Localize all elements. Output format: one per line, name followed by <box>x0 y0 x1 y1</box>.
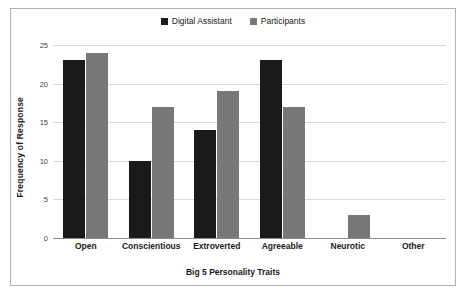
bar <box>348 215 370 238</box>
x-axis-tick-labels: OpenConscientiousExtrovertedAgreeableNeu… <box>53 241 446 251</box>
x-axis-tick-label: Agreeable <box>250 241 316 251</box>
chart-figure: Digital Assistant Participants Frequency… <box>10 8 456 286</box>
bar <box>86 53 108 238</box>
x-axis-tick-label: Open <box>53 241 119 251</box>
x-axis-tick-label: Other <box>381 241 447 251</box>
y-axis-tick-label: 10 <box>40 156 48 165</box>
x-axis-title: Big 5 Personality Traits <box>11 267 455 277</box>
bar <box>194 130 216 238</box>
bar-group <box>184 45 250 238</box>
bar <box>283 107 305 238</box>
y-axis-tick-label: 5 <box>44 195 48 204</box>
bar <box>63 60 85 238</box>
y-axis-title-text: Frequency of Response <box>15 97 25 198</box>
y-axis-tick-label: 20 <box>40 79 48 88</box>
bar-group <box>119 45 185 238</box>
y-axis-tick-label: 25 <box>40 41 48 50</box>
x-axis-tick-label: Conscientious <box>119 241 185 251</box>
x-axis-tick-label: Neurotic <box>315 241 381 251</box>
legend-label-participants: Participants <box>261 17 305 26</box>
bar-group <box>250 45 316 238</box>
legend-swatch-digital-assistant <box>161 18 168 25</box>
bar-group <box>381 45 447 238</box>
legend-entry-digital-assistant: Digital Assistant <box>161 17 232 26</box>
bar-group <box>53 45 119 238</box>
bar-group <box>315 45 381 238</box>
y-axis-title: Frequency of Response <box>15 9 25 285</box>
bar <box>152 107 174 238</box>
bar <box>260 60 282 238</box>
axis-baseline: 0 <box>53 238 446 239</box>
x-axis-tick-label: Extroverted <box>184 241 250 251</box>
chart-legend: Digital Assistant Participants <box>11 17 455 26</box>
bar-groups <box>53 45 446 238</box>
legend-entry-participants: Participants <box>250 17 305 26</box>
bar <box>217 91 239 238</box>
bar <box>129 161 151 238</box>
legend-swatch-participants <box>250 18 257 25</box>
plot-area: 0510152025 <box>53 45 446 238</box>
y-axis-tick-label: 0 <box>44 234 48 243</box>
y-axis-tick-label: 15 <box>40 118 48 127</box>
legend-label-digital-assistant: Digital Assistant <box>172 17 232 26</box>
